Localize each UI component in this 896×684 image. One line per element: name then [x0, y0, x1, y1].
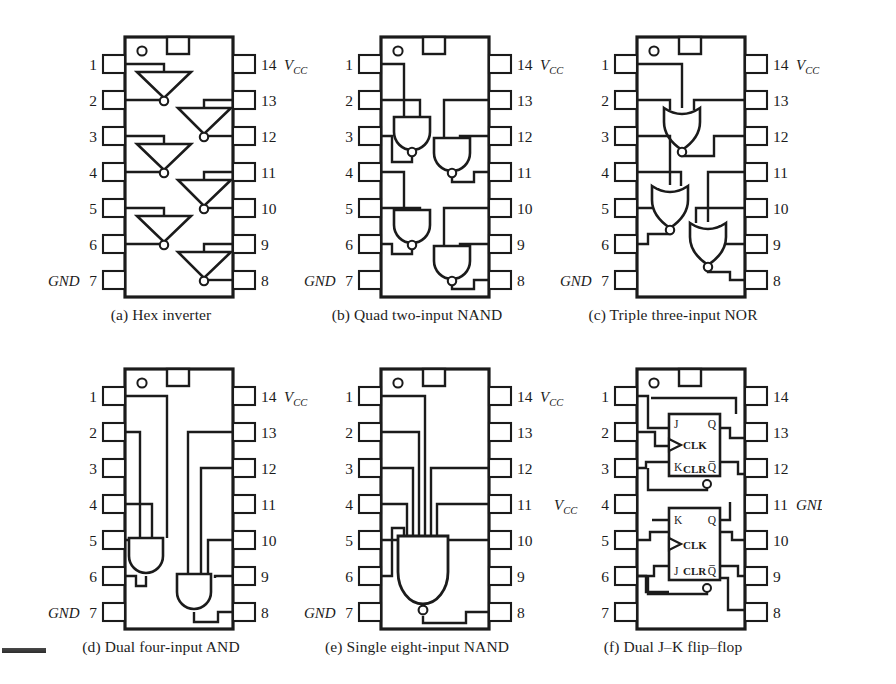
pin-tab-right-9 [233, 567, 255, 585]
package-notch-icon [167, 37, 189, 54]
pin-tab-left-6 [359, 567, 381, 585]
pin-label-right-14: 14 [773, 388, 789, 405]
pin-label-left-7: 7 [89, 272, 97, 289]
nor-gate-3 [690, 223, 726, 265]
nand-bubble-1 [408, 148, 416, 156]
pin-label-left-6: 6 [601, 236, 609, 253]
pin-label-left-5: 5 [345, 200, 353, 217]
pin-tab-right-13 [745, 91, 767, 109]
pin-label-left-2: 2 [601, 92, 609, 109]
ff1-clr-label: CLR [683, 463, 707, 475]
clear-bubble-2 [703, 584, 711, 592]
pin-label-left-3: 3 [89, 460, 97, 477]
pin-tab-left-6 [615, 567, 637, 585]
pin-tab-left-7 [359, 271, 381, 289]
pin-tab-right-9 [233, 235, 255, 253]
package-notch-icon [167, 369, 189, 386]
pin-label-left-6: 6 [345, 236, 353, 253]
pin-label-left-3: 3 [345, 460, 353, 477]
pin-tab-left-4 [359, 163, 381, 181]
ff2-clr-label: CLR [683, 565, 707, 577]
package-notch-icon [679, 37, 701, 54]
chip-caption-d: (d) Dual four-input AND [12, 638, 310, 656]
pin-label-left-3: 3 [601, 128, 609, 145]
pin-tab-right-9 [489, 567, 511, 585]
chip-diagram-f: J K CLK CLR Q Q̅ K J CLK CLR Q Q̅ 1 2 3 … [524, 342, 822, 642]
pin-tab-left-1 [103, 387, 125, 405]
pin-label-right-9: 9 [773, 236, 781, 253]
gnd-label-b: GND [304, 273, 336, 289]
pin1-dot-icon [649, 378, 658, 387]
pin-tab-right-11 [489, 163, 511, 181]
pin-label-left-2: 2 [345, 424, 353, 441]
gnd-label-a: GND [48, 273, 80, 289]
chip-caption-a: (a) Hex inverter [12, 306, 310, 324]
nor-bubble-1 [678, 148, 686, 156]
pin-tab-left-2 [103, 423, 125, 441]
pin-tab-right-13 [233, 423, 255, 441]
pin-label-left-4: 4 [89, 164, 97, 181]
pin-tab-right-11 [233, 163, 255, 181]
pin-label-right-14: 14 [773, 56, 789, 73]
page-rule-mark [2, 648, 46, 653]
pin-tab-right-10 [489, 199, 511, 217]
nand-gate-3 [434, 138, 470, 171]
nand-bubble-2 [408, 241, 416, 249]
ff1-q-label: Q [708, 418, 717, 430]
pin-label-left-7: 7 [601, 272, 609, 289]
ff2-k-label: K [674, 514, 683, 526]
and-gate-2 [177, 574, 211, 609]
pin-tab-left-6 [359, 235, 381, 253]
pin-tab-left-2 [359, 423, 381, 441]
pin-label-left-1: 1 [601, 388, 609, 405]
chip-body-c [637, 37, 745, 297]
pin-label-left-5: 5 [601, 200, 609, 217]
pin-tab-left-2 [103, 91, 125, 109]
pin-tab-right-14 [489, 387, 511, 405]
pin-label-right-13: 13 [773, 92, 789, 109]
chip-cell-e: 1 2 3 4 5 6 7 GND 14 13 12 11 10 9 8 VCC… [268, 342, 566, 684]
pin-label-right-9: 9 [773, 568, 781, 585]
inverter-gate-5 [178, 180, 231, 206]
pin1-dot-icon [393, 46, 402, 55]
pin-tab-left-2 [615, 91, 637, 109]
chip-diagram-b: 1 2 3 4 5 6 7 GND 14 13 12 11 10 9 8 VCC [268, 10, 566, 310]
pin-tab-left-6 [103, 567, 125, 585]
pin-label-left-6: 6 [89, 568, 97, 585]
vcc-label-f: VCC [554, 497, 578, 516]
pin-tab-left-4 [103, 495, 125, 513]
pin-tab-right-10 [489, 531, 511, 549]
inverter-gate-6 [178, 252, 231, 278]
pin-label-left-4: 4 [601, 164, 609, 181]
clear-bubble-1 [703, 480, 711, 488]
chip-diagram-d: 1 2 3 4 5 6 7 GND 14 13 12 11 10 9 8 VCC [12, 342, 310, 642]
pin-label-left-4: 4 [89, 496, 97, 513]
pin-tab-left-1 [615, 387, 637, 405]
pin-tab-left-5 [615, 199, 637, 217]
nand-gate-2 [394, 210, 430, 243]
inverter-gate-4 [178, 108, 231, 134]
pin-tab-left-1 [103, 55, 125, 73]
package-notch-icon [679, 369, 701, 386]
and-gate-1 [129, 538, 163, 573]
pin-label-left-1: 1 [601, 56, 609, 73]
ff2-clk-label: CLK [683, 539, 707, 551]
pin-label-left-7: 7 [345, 604, 353, 621]
pin-tab-right-11 [233, 495, 255, 513]
inverter-bubble-2 [160, 169, 168, 177]
pin-label-left-4: 4 [601, 496, 609, 513]
pin-tab-left-2 [615, 423, 637, 441]
pin-label-right-8: 8 [773, 272, 781, 289]
pin-tab-right-14 [745, 387, 767, 405]
pin-tab-left-3 [359, 459, 381, 477]
pin-label-left-3: 3 [601, 460, 609, 477]
gnd-label-f: GND [796, 497, 822, 513]
pin-label-left-7: 7 [345, 272, 353, 289]
pin-label-left-1: 1 [345, 56, 353, 73]
pin-label-left-1: 1 [89, 56, 97, 73]
pin-label-left-1: 1 [89, 388, 97, 405]
pin-tab-right-11 [489, 495, 511, 513]
pin-tab-right-12 [233, 127, 255, 145]
pin-tab-left-3 [103, 127, 125, 145]
ff2-j-label: J [674, 565, 679, 577]
